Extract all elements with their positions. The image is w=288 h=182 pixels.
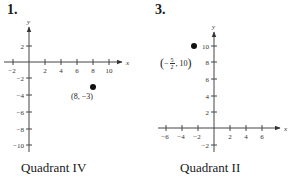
svg-text:10: 10 (202, 43, 210, 51)
svg-text:−2: −2 (193, 133, 201, 141)
fraction-denominator: 2 (171, 64, 174, 70)
svg-text:y: y (211, 23, 216, 31)
svg-text:8: 8 (91, 67, 95, 75)
graph-1: x y −2 2 4 6 8 10 2 (4, 18, 130, 152)
svg-text:x: x (283, 125, 288, 133)
x-axis-label: x (125, 59, 130, 67)
point-label-3: (− 5 2 , 10) (160, 56, 192, 71)
svg-text:−2: −2 (202, 142, 210, 150)
point-label-1: (8, −3) (71, 92, 93, 101)
x-tick-labels: −2 2 4 6 8 10 (8, 67, 113, 75)
svg-text:6: 6 (260, 133, 264, 141)
y-tick-labels: 2 −2 −4 −6 −8 −10 (13, 43, 24, 150)
svg-text:4: 4 (59, 67, 63, 75)
svg-text:−2: −2 (8, 67, 16, 75)
svg-text:−6: −6 (161, 133, 169, 141)
y-axis-label: y (26, 18, 31, 26)
svg-text:10: 10 (106, 67, 114, 75)
svg-text:−4: −4 (177, 133, 185, 141)
coordinate-graphs: x y −2 2 4 6 8 10 2 (0, 0, 288, 182)
svg-text:−2: −2 (17, 75, 25, 83)
svg-text:4: 4 (206, 93, 210, 101)
svg-text:−10: −10 (13, 142, 24, 150)
svg-text:−6: −6 (17, 109, 25, 117)
svg-text:2: 2 (21, 43, 25, 51)
caption-1: Quadrant IV (21, 160, 86, 176)
svg-text:−8: −8 (17, 126, 25, 134)
point-neg5half-10 (191, 43, 197, 49)
svg-text:6: 6 (206, 76, 210, 84)
svg-text:2: 2 (228, 133, 232, 141)
svg-text:8: 8 (206, 59, 210, 67)
svg-text:4: 4 (244, 133, 248, 141)
svg-text:6: 6 (75, 67, 79, 75)
svg-text:2: 2 (206, 109, 210, 117)
graph-3: x y −6 −4 −2 2 4 6 10 8 (158, 23, 288, 152)
svg-text:2: 2 (43, 67, 47, 75)
caption-3: Quadrant II (180, 160, 240, 176)
svg-text:−4: −4 (17, 92, 25, 100)
point-8-neg3 (90, 84, 96, 90)
